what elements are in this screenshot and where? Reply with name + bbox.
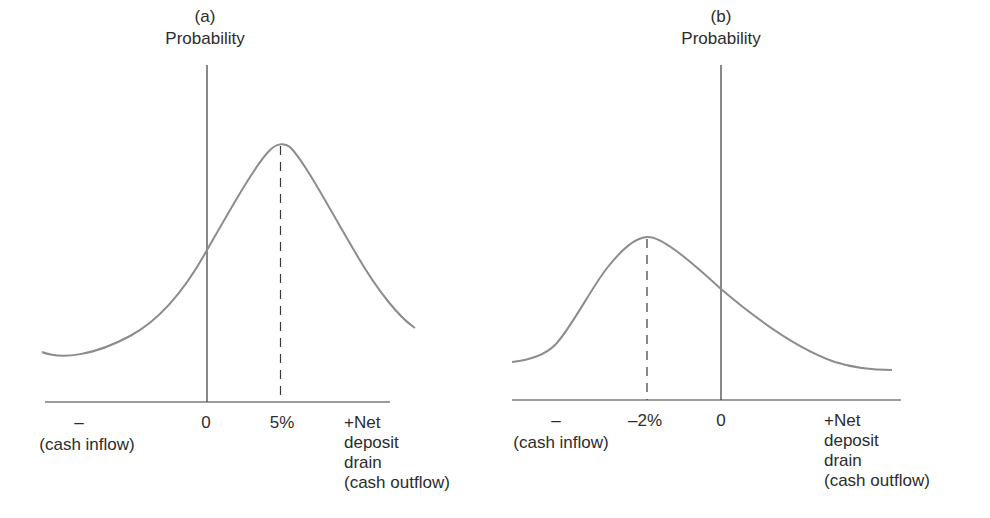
panel-label: (b) bbox=[711, 6, 732, 27]
y-axis-label: Probability bbox=[681, 28, 760, 49]
x-right-label-line: +Net bbox=[344, 413, 450, 433]
panel-b: (b) Probability – (cash inflow) –2% 0 +N… bbox=[495, 0, 990, 518]
x-right-label-line: deposit bbox=[344, 433, 450, 453]
panel-a: (a) Probability – (cash inflow) 0 5% +Ne… bbox=[0, 0, 495, 518]
mode-tick-label: –2% bbox=[628, 410, 662, 431]
x-left-label: – bbox=[551, 410, 560, 431]
x-right-label-line: drain bbox=[824, 451, 930, 471]
probability-curve bbox=[42, 144, 415, 355]
probability-curve bbox=[512, 237, 892, 370]
x-right-label-line: (cash outflow) bbox=[344, 473, 450, 493]
x-right-label-line: drain bbox=[344, 453, 450, 473]
x-left-sublabel: (cash inflow) bbox=[39, 434, 134, 455]
y-axis-label: Probability bbox=[165, 28, 244, 49]
x-left-label: – bbox=[74, 412, 83, 433]
panel-label: (a) bbox=[195, 6, 216, 27]
x-left-sublabel: (cash inflow) bbox=[513, 432, 608, 453]
zero-tick-label: 0 bbox=[201, 412, 210, 433]
x-right-label-line: deposit bbox=[824, 431, 930, 451]
x-right-label-line: +Net bbox=[824, 411, 930, 431]
mode-tick-label: 5% bbox=[270, 412, 295, 433]
x-right-label-line: (cash outflow) bbox=[824, 471, 930, 491]
zero-tick-label: 0 bbox=[716, 410, 725, 431]
x-right-label: +Net deposit drain (cash outflow) bbox=[344, 413, 450, 493]
x-right-label: +Net deposit drain (cash outflow) bbox=[824, 411, 930, 491]
